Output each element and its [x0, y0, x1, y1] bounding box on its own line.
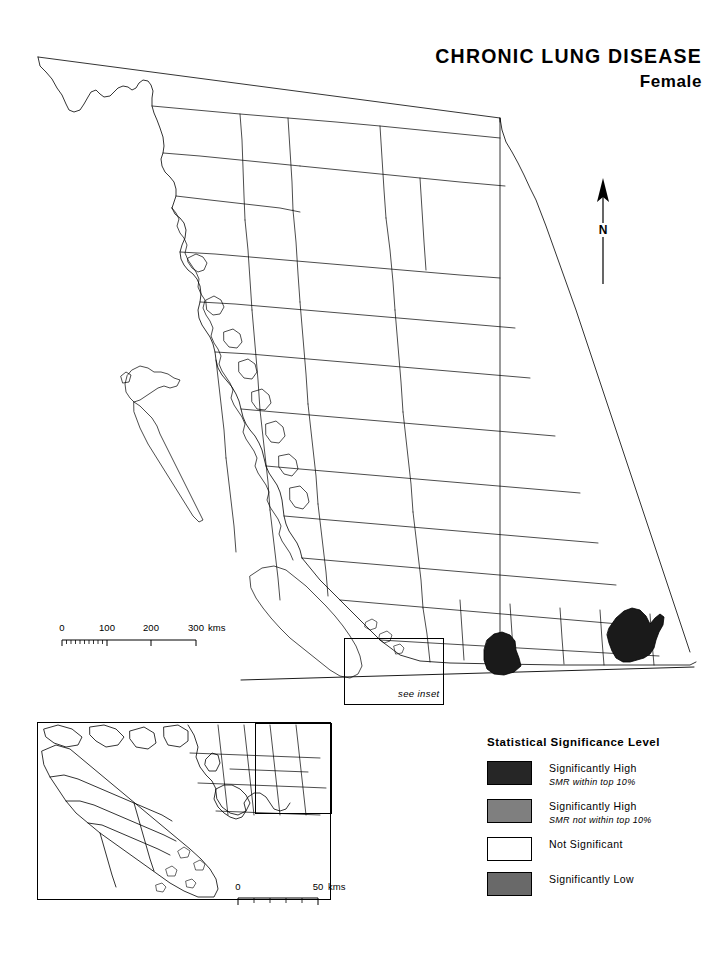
inset-map [37, 722, 331, 900]
legend-title: Statistical Significance Level [487, 736, 702, 748]
inset-vancouver-island [42, 745, 218, 897]
scale-unit-main: kms [208, 622, 226, 633]
legend-text-group: Significantly High SMR not within top 10… [549, 799, 652, 826]
inset-island-north-1 [44, 725, 82, 747]
inset-mainland-coast [188, 725, 290, 819]
legend-item-significantly-high-not-top10: Significantly High SMR not within top 10… [487, 799, 702, 826]
legend-note: SMR within top 10% [549, 776, 637, 788]
province-outline-northwest [38, 57, 176, 208]
inset-scale-unit: kms [328, 881, 346, 892]
map-page: CHRONIC LUNG DISEASE Female N [0, 0, 724, 967]
scale-bar-main: 0 100 200 300 kms [58, 618, 228, 652]
main-map-svg [0, 0, 724, 720]
legend-text-group: Not Significant [549, 837, 623, 852]
inset-howe-sound [205, 753, 220, 771]
scale-label-300: 300 [188, 622, 204, 633]
legend-text-group: Significantly Low [549, 872, 634, 887]
legend-item-not-significant: Not Significant [487, 837, 702, 861]
legend-swatch-significantly-low [487, 872, 532, 896]
legend-label: Significantly High [549, 800, 652, 813]
province-outline-east-rockies [500, 118, 690, 652]
inset-vi-boundary-5 [100, 833, 116, 887]
highlighted-region-south-central [484, 632, 521, 675]
inset-vi-boundary-4 [134, 803, 154, 871]
inset-scale-label-50: 50 [313, 881, 324, 892]
legend-swatch-significantly-high-top10 [487, 761, 532, 785]
inset-vi-boundary-1 [50, 775, 172, 821]
main-map [0, 0, 724, 720]
scale-label-0: 0 [59, 622, 64, 633]
highlighted-region-south-east [607, 608, 664, 662]
legend-swatch-not-significant [487, 837, 532, 861]
border-49th-parallel [241, 667, 694, 680]
inset-island-north-3 [130, 727, 156, 749]
legend-label: Significantly Low [549, 873, 634, 886]
inset-map-svg [38, 723, 330, 899]
inset-vi-boundary-2 [66, 801, 176, 841]
inset-small-islands [156, 847, 205, 892]
legend-label: Significantly High [549, 762, 637, 775]
legend-note: SMR not within top 10% [549, 814, 652, 826]
province-outline-panhandle [172, 208, 302, 558]
scale-bar-inset: 0 50 kms [234, 878, 344, 910]
inset-island-north-4 [164, 725, 188, 747]
haida-gwaii [121, 366, 203, 522]
inset-vi-boundary-3 [88, 823, 170, 855]
inset-lower-mainland-regions [190, 725, 326, 815]
see-inset-label: see inset [398, 688, 440, 699]
legend-swatch-significantly-high-not-top10 [487, 799, 532, 823]
inset-scale-label-0: 0 [235, 881, 240, 892]
legend-item-significantly-high-top10: Significantly High SMR within top 10% [487, 761, 702, 788]
coastline-detail [172, 208, 309, 560]
province-outline-north [38, 57, 500, 122]
legend-text-group: Significantly High SMR within top 10% [549, 761, 637, 788]
legend-label: Not Significant [549, 838, 623, 851]
scale-label-100: 100 [99, 622, 115, 633]
scale-label-200: 200 [143, 622, 159, 633]
legend-item-significantly-low: Significantly Low [487, 872, 702, 896]
legend: Statistical Significance Level Significa… [487, 736, 702, 907]
health-region-boundaries [152, 106, 659, 665]
inset-island-north-2 [90, 725, 124, 747]
